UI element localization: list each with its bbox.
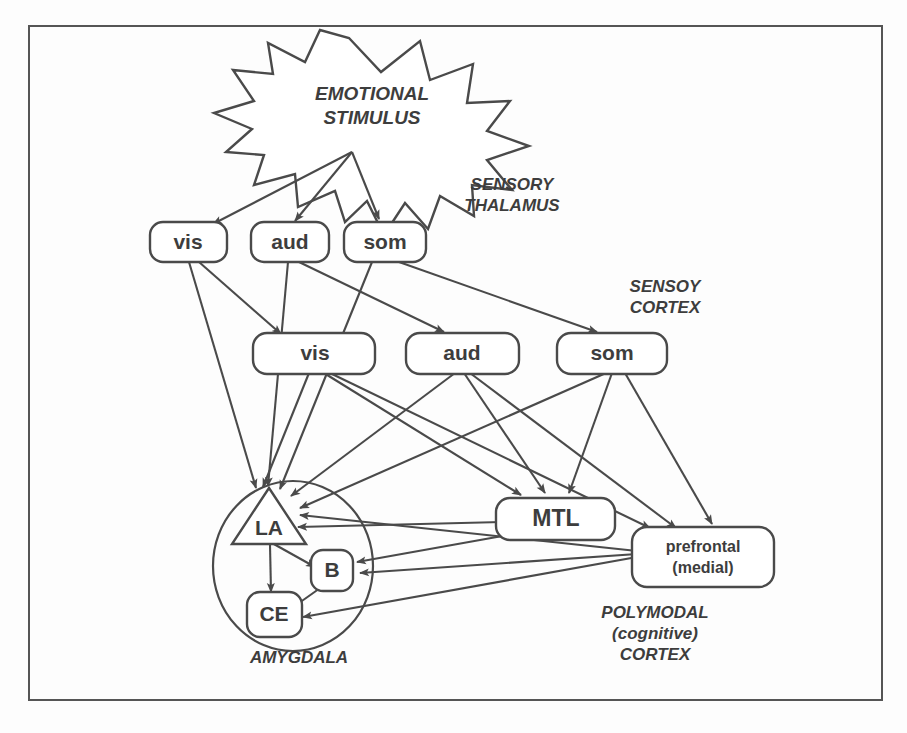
- sensory-thalamus-group: vis aud som: [150, 222, 426, 262]
- stimulus-line2: STIMULUS: [323, 107, 420, 128]
- region-label-sensory-cortex: SENSOY CORTEX: [630, 277, 703, 317]
- node-mtl[interactable]: MTL: [496, 498, 615, 540]
- la-label: LA: [255, 516, 283, 539]
- thalamus-som-label: som: [363, 230, 406, 253]
- cortex-aud-label: aud: [443, 341, 480, 364]
- node-prefrontal[interactable]: prefrontal (medial): [632, 527, 774, 587]
- polymodal-line3: CORTEX: [620, 645, 692, 664]
- mtl-label: MTL: [532, 505, 579, 531]
- polymodal-line2: (cognitive): [612, 624, 698, 643]
- ce-label: CE: [259, 602, 288, 625]
- cortex-som-label: som: [590, 341, 633, 364]
- prefrontal-box[interactable]: [632, 527, 774, 587]
- node-b[interactable]: B: [311, 550, 353, 591]
- polymodal-line1: POLYMODAL: [601, 603, 708, 622]
- edge-la-ce: [270, 545, 271, 592]
- node-la[interactable]: LA: [232, 488, 306, 544]
- region-label-polymodal-cortex: POLYMODAL (cognitive) CORTEX: [601, 603, 708, 664]
- node-cortex-aud[interactable]: aud: [406, 333, 519, 374]
- prefrontal-label-line2: (medial): [672, 559, 733, 576]
- edge-ctxaud-la: [291, 373, 455, 496]
- thalamus-aud-label: aud: [271, 230, 308, 253]
- sensory-cortex-line1: SENSOY: [630, 277, 703, 296]
- prefrontal-label-line1: prefrontal: [666, 538, 741, 555]
- thalamus-vis-label: vis: [173, 230, 202, 253]
- edge-thalsom-la: [280, 262, 372, 489]
- edge-ctxvis-la: [263, 373, 309, 487]
- sensory-thalamus-line2: THALAMUS: [464, 196, 560, 215]
- edges-thalamus-to-cortex: [199, 262, 597, 334]
- edge-thalvis-ctxvis: [199, 262, 281, 334]
- sensory-cortex-group: vis aud som: [253, 333, 667, 374]
- cortex-vis-label: vis: [300, 341, 329, 364]
- node-thalamus-vis[interactable]: vis: [150, 222, 227, 262]
- edge-ctxvis-mtl: [324, 373, 521, 495]
- stimulus-line1: EMOTIONAL: [315, 83, 429, 104]
- edge-thalsom-ctxsom: [399, 262, 597, 332]
- node-ce[interactable]: CE: [247, 592, 302, 637]
- node-cortex-vis[interactable]: vis: [253, 333, 375, 374]
- region-label-sensory-thalamus: SENSORY THALAMUS: [464, 175, 560, 215]
- node-thalamus-aud[interactable]: aud: [251, 222, 329, 262]
- amygdala-label: AMYGDALA: [249, 648, 348, 667]
- pathway-diagram: EMOTIONAL STIMULUS: [0, 0, 907, 733]
- edge-thalvis-la: [189, 262, 256, 488]
- edge-ctxaud-mtl: [464, 373, 545, 493]
- region-label-amygdala: AMYGDALA: [249, 648, 348, 667]
- node-thalamus-som[interactable]: som: [344, 222, 426, 262]
- sensory-cortex-line2: CORTEX: [630, 298, 702, 317]
- edge-la-b: [272, 543, 315, 567]
- node-cortex-som[interactable]: som: [557, 333, 667, 374]
- edge-thalaud-ctxaud: [299, 262, 444, 332]
- b-label: B: [324, 558, 339, 581]
- edge-ctxsom-prefrontal: [625, 373, 712, 524]
- figure-root: EMOTIONAL STIMULUS: [0, 0, 907, 733]
- edge-mtl-b: [357, 535, 508, 562]
- sensory-thalamus-line1: SENSORY: [471, 175, 555, 194]
